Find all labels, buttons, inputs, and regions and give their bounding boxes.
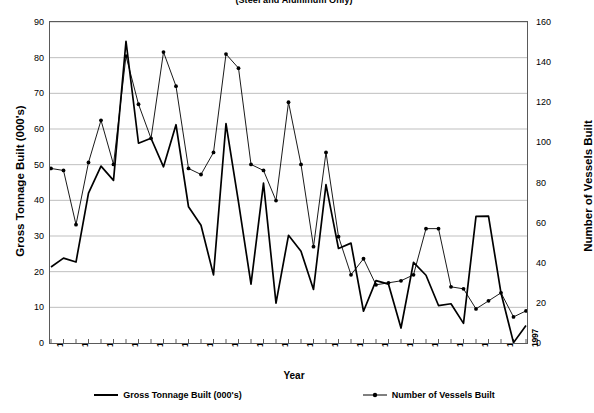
y-tick-right-160: 160 xyxy=(536,17,566,27)
y-tick-right-20: 20 xyxy=(536,298,566,308)
chart-title: (Steel and Aluminum Only) xyxy=(0,0,588,5)
y-tick-right-100: 100 xyxy=(536,137,566,147)
y-tick-left-10: 10 xyxy=(14,302,44,312)
chart-legend: Gross Tonnage Built (000's) Number of Ve… xyxy=(0,390,588,400)
legend-label-tonnage: Gross Tonnage Built (000's) xyxy=(123,390,242,400)
y-tick-right-120: 120 xyxy=(536,97,566,107)
y-tick-left-0: 0 xyxy=(14,338,44,348)
series-line-1 xyxy=(51,52,526,317)
plot-area xyxy=(49,21,528,344)
y-axis-title-right: Number of Vessels Built xyxy=(582,26,594,346)
y-tick-right-80: 80 xyxy=(536,178,566,188)
y-tick-right-60: 60 xyxy=(536,218,566,228)
y-tick-left-70: 70 xyxy=(14,88,44,98)
x-axis-title: Year xyxy=(0,370,588,381)
x-tick-1997: 1997 xyxy=(530,329,540,347)
legend-label-vessels: Number of Vessels Built xyxy=(392,390,495,400)
legend-item-vessels[interactable]: Number of Vessels Built xyxy=(362,390,495,400)
legend-key-line xyxy=(93,390,119,400)
y-tick-left-20: 20 xyxy=(14,267,44,277)
y-tick-right-40: 40 xyxy=(536,258,566,268)
y-tick-left-90: 90 xyxy=(14,17,44,27)
legend-item-tonnage[interactable]: Gross Tonnage Built (000's) xyxy=(93,390,242,400)
y-tick-left-50: 50 xyxy=(14,160,44,170)
y-tick-left-30: 30 xyxy=(14,231,44,241)
plot-svg xyxy=(50,22,527,343)
gridlines xyxy=(50,22,527,307)
y-tick-left-80: 80 xyxy=(14,53,44,63)
legend-key-line-marker xyxy=(362,390,388,400)
y-tick-right-0: 0 xyxy=(536,338,566,348)
y-tick-right-140: 140 xyxy=(536,57,566,67)
x-tick-marks xyxy=(51,339,526,343)
y-axis-title-left: Gross Tonnage Built (000's) xyxy=(14,21,26,341)
y-tick-left-60: 60 xyxy=(14,124,44,134)
y-tick-left-40: 40 xyxy=(14,195,44,205)
